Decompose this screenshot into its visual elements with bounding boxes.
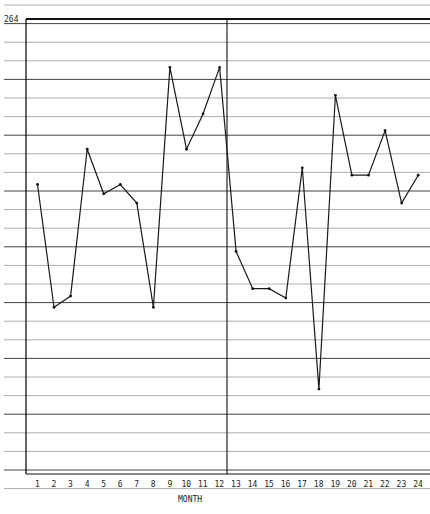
data-point	[102, 192, 105, 195]
x-tick-label: 3	[68, 480, 73, 489]
x-tick-label: 17	[297, 480, 307, 489]
data-point	[384, 129, 387, 132]
x-tick-label: 8	[151, 480, 156, 489]
data-point	[334, 94, 337, 97]
x-tick-label: 21	[364, 480, 374, 489]
y-tick-label: 264	[4, 15, 19, 24]
data-point	[251, 287, 254, 290]
data-point	[318, 388, 321, 391]
x-tick-label: 13	[231, 480, 241, 489]
data-point	[86, 148, 89, 151]
data-point	[135, 202, 138, 205]
data-point	[36, 183, 39, 186]
x-tick-label: 1	[35, 480, 40, 489]
x-tick-label: 5	[101, 480, 106, 489]
x-tick-label: 9	[167, 480, 172, 489]
x-tick-label: 6	[118, 480, 123, 489]
data-point	[185, 148, 188, 151]
data-point	[268, 287, 271, 290]
x-tick-label: 23	[397, 480, 407, 489]
x-tick-label: 10	[181, 480, 191, 489]
data-point	[235, 250, 238, 253]
x-tick-label: 16	[281, 480, 291, 489]
data-point	[284, 297, 287, 300]
x-tick-label: 15	[264, 480, 274, 489]
data-point	[53, 306, 56, 309]
data-point	[202, 113, 205, 116]
data-point	[301, 166, 304, 169]
grid-lines	[4, 5, 430, 489]
x-tick-label: 19	[330, 480, 340, 489]
line-chart: 264 123456789101112131415161718192021222…	[0, 0, 430, 514]
data-point	[351, 174, 354, 177]
data-point	[367, 174, 370, 177]
x-tick-label: 22	[380, 480, 390, 489]
data-point	[169, 66, 172, 69]
data-point	[400, 202, 403, 205]
data-point	[152, 306, 155, 309]
x-tick-label: 12	[215, 480, 225, 489]
data-point	[119, 183, 122, 186]
data-point	[69, 295, 72, 298]
x-axis-label: MONTH	[178, 495, 202, 504]
x-tick-label: 14	[248, 480, 258, 489]
data-point	[218, 66, 221, 69]
x-tick-label: 24	[413, 480, 423, 489]
x-tick-labels: 123456789101112131415161718192021222324	[35, 480, 423, 489]
x-tick-label: 11	[198, 480, 208, 489]
x-tick-label: 7	[134, 480, 139, 489]
data-point	[417, 174, 420, 177]
x-tick-label: 20	[347, 480, 357, 489]
x-tick-label: 4	[85, 480, 90, 489]
x-tick-label: 2	[52, 480, 57, 489]
x-tick-label: 18	[314, 480, 324, 489]
